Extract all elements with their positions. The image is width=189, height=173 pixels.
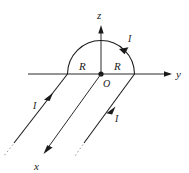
z-axis-arrowhead	[98, 25, 103, 34]
radius-markers: R R	[78, 60, 121, 72]
right-wire-current-label: I	[114, 113, 119, 124]
z-axis-label: z	[96, 9, 102, 21]
y-axis-arrowhead	[164, 71, 172, 77]
left-wire-dashed-tail	[4, 145, 13, 157]
right-wire-dashed-tail	[75, 145, 83, 157]
center-lead-wire-x-axis: x	[33, 74, 101, 172]
figure-canvas: y z I R R O	[0, 0, 189, 173]
x-axis-line	[47, 74, 101, 149]
x-axis-arrowhead	[44, 145, 53, 154]
left-lead-wire: I	[4, 74, 68, 156]
y-axis-label: y	[175, 68, 181, 80]
physics-figure: y z I R R O	[0, 0, 189, 173]
left-wire-current-arrowhead	[44, 93, 53, 101]
x-axis-label: x	[33, 160, 39, 172]
arc-current-label: I	[127, 33, 132, 44]
left-wire-line	[14, 74, 68, 143]
origin-label: O	[103, 78, 110, 89]
radius-label-left: R	[78, 60, 86, 72]
z-axis: z	[96, 9, 104, 76]
left-wire-current-label: I	[32, 100, 37, 111]
radius-label-right: R	[113, 60, 121, 72]
